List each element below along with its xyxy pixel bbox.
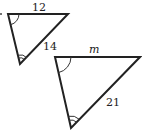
small-triangle: 12 14: [8, 1, 68, 64]
large-triangle: m 21: [55, 43, 140, 128]
large-triangle-outline: [55, 57, 140, 128]
large-angle-double-arc-outer-icon: [68, 116, 79, 119]
marker-dot: [0, 13, 2, 15]
similar-triangles-diagram: 12 14 m 21: [0, 0, 142, 134]
large-top-side-label: m: [89, 43, 99, 56]
large-angle-single-arc-icon: [59, 57, 72, 73]
diagram-svg: 12 14 m 21: [0, 0, 142, 134]
large-right-side-label: 21: [106, 96, 120, 109]
small-angle-single-arc-icon: [11, 14, 19, 25]
small-top-side-label: 12: [32, 1, 46, 14]
small-right-side-label: 14: [43, 40, 57, 53]
